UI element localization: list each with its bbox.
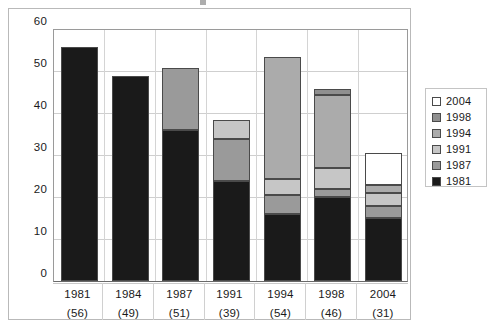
legend-swatch-icon	[432, 145, 441, 154]
legend-swatch-icon	[432, 161, 441, 170]
x-year-label: 1998	[307, 288, 356, 300]
bar-1998[interactable]	[314, 89, 351, 281]
bar-segment-1994-1981[interactable]	[264, 214, 301, 281]
legend-label: 1994	[446, 127, 471, 139]
x-category-1987: 1987 (51)	[155, 283, 205, 320]
bar-segment-1998-1991[interactable]	[314, 168, 351, 189]
y-tick-40: 40	[34, 99, 47, 111]
bar-1994[interactable]	[264, 57, 301, 281]
y-tick-60: 60	[34, 15, 47, 27]
legend: 2004 1998 1994 1991 1987 1981	[425, 88, 487, 187]
cropped-title-remnant	[200, 0, 206, 5]
x-year-label: 1981	[53, 288, 102, 300]
x-count-label: (46)	[307, 307, 356, 319]
bar-segment-2004-1981[interactable]	[365, 218, 402, 281]
x-category-1984: 1984 (49)	[104, 283, 154, 320]
x-count-label: (31)	[358, 307, 408, 319]
legend-item-1994[interactable]: 1994	[432, 125, 486, 141]
bar-segment-2004-1987[interactable]	[365, 206, 402, 219]
y-axis: 60 50 40 30 20 10 0	[9, 9, 53, 283]
x-year-label: 1991	[205, 288, 254, 300]
legend-item-1987[interactable]: 1987	[432, 157, 486, 173]
plot-area	[53, 29, 408, 282]
legend-swatch-icon	[432, 129, 441, 138]
x-category-2004: 2004 (31)	[358, 283, 408, 320]
legend-swatch-icon	[432, 97, 441, 106]
bar-segment-1991-1981[interactable]	[213, 181, 250, 281]
x-category-1994: 1994 (54)	[256, 283, 306, 320]
bar-1984[interactable]	[112, 76, 149, 281]
x-year-label: 1994	[256, 288, 305, 300]
x-category-1998: 1998 (46)	[307, 283, 357, 320]
bar-segment-1994-1991[interactable]	[264, 179, 301, 196]
bar-segment-1987-1981[interactable]	[162, 130, 199, 281]
bar-segment-1998-1981[interactable]	[314, 197, 351, 281]
bars-container	[54, 30, 407, 281]
legend-swatch-icon	[432, 113, 441, 122]
bar-2004[interactable]	[365, 153, 402, 281]
x-category-1991: 1991 (39)	[205, 283, 255, 320]
x-count-label: (49)	[104, 307, 153, 319]
y-tick-0: 0	[40, 267, 47, 279]
y-tick-10: 10	[34, 225, 47, 237]
bar-1987[interactable]	[162, 68, 199, 281]
y-tick-30: 30	[34, 141, 47, 153]
chart-frame: 60 50 40 30 20 10 0 1981 (56)	[8, 8, 411, 320]
legend-item-2004[interactable]: 2004	[432, 93, 486, 109]
legend-label: 1998	[446, 111, 471, 123]
y-tick-20: 20	[34, 183, 47, 195]
bar-segment-1987-1987[interactable]	[162, 68, 199, 131]
legend-swatch-icon	[432, 177, 441, 186]
bar-segment-1994-1994[interactable]	[264, 57, 301, 178]
bar-segment-2004-1994[interactable]	[365, 185, 402, 193]
x-count-label: (56)	[53, 307, 102, 319]
bar-segment-1991-1987[interactable]	[213, 139, 250, 181]
bar-1981[interactable]	[61, 47, 98, 281]
x-year-label: 2004	[358, 288, 408, 300]
legend-item-1998[interactable]: 1998	[432, 109, 486, 125]
bar-segment-2004-1991[interactable]	[365, 193, 402, 206]
legend-item-1981[interactable]: 1981	[432, 173, 486, 189]
x-year-label: 1987	[155, 288, 204, 300]
legend-label: 1981	[446, 175, 471, 187]
bar-segment-1981-1981[interactable]	[61, 47, 98, 281]
x-category-1981: 1981 (56)	[53, 283, 103, 320]
bar-segment-2004-2004[interactable]	[365, 153, 402, 184]
legend-item-1991[interactable]: 1991	[432, 141, 486, 157]
bar-segment-1998-1994[interactable]	[314, 95, 351, 168]
legend-label: 1987	[446, 159, 471, 171]
bar-segment-1998-1998[interactable]	[314, 89, 351, 95]
bar-segment-1998-1987[interactable]	[314, 189, 351, 197]
y-tick-50: 50	[34, 57, 47, 69]
x-axis-labels: 1981 (56) 1984 (49) 1987 (51) 1991 (39) …	[53, 283, 408, 320]
legend-label: 2004	[446, 95, 471, 107]
x-year-label: 1984	[104, 288, 153, 300]
x-count-label: (54)	[256, 307, 305, 319]
x-count-label: (39)	[205, 307, 254, 319]
bar-1991[interactable]	[213, 120, 250, 281]
bar-segment-1984-1981[interactable]	[112, 76, 149, 281]
legend-label: 1991	[446, 143, 471, 155]
x-count-label: (51)	[155, 307, 204, 319]
bar-segment-1994-1987[interactable]	[264, 195, 301, 214]
bar-segment-1991-1991[interactable]	[213, 120, 250, 139]
